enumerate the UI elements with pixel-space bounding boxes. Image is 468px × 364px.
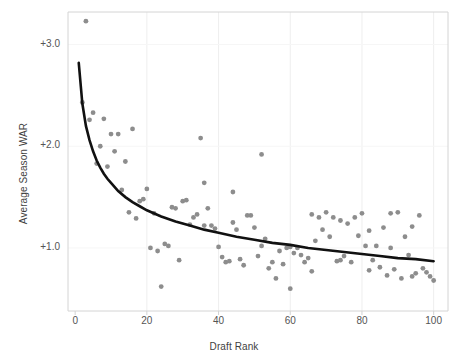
data-point	[338, 218, 343, 223]
data-point	[288, 286, 293, 291]
data-point	[259, 244, 264, 249]
data-point	[338, 258, 343, 263]
data-point	[130, 127, 135, 132]
data-point	[105, 164, 110, 169]
data-point	[399, 276, 404, 281]
data-point	[320, 227, 325, 232]
data-point	[162, 241, 167, 246]
data-point	[220, 255, 225, 260]
data-point	[363, 244, 368, 249]
data-point	[234, 227, 239, 232]
data-point	[238, 257, 243, 262]
chart-container: 020406080100 +1.0+2.0+3.0 Draft Rank Ave…	[0, 0, 468, 364]
data-point	[202, 223, 207, 228]
x-tick-label: 100	[414, 315, 454, 326]
data-point	[155, 249, 160, 254]
data-point	[431, 278, 436, 283]
data-point	[84, 19, 89, 24]
data-point	[374, 244, 379, 249]
data-point	[324, 210, 329, 215]
data-point	[277, 249, 282, 254]
data-point	[216, 245, 221, 250]
data-point	[327, 234, 332, 239]
data-point	[410, 274, 415, 279]
data-point	[252, 225, 257, 230]
data-point	[406, 253, 411, 258]
data-point	[184, 198, 189, 203]
data-point	[291, 251, 296, 256]
data-point	[101, 116, 106, 121]
data-point	[309, 269, 314, 274]
data-point	[403, 234, 408, 239]
data-point	[191, 215, 196, 220]
data-point	[202, 180, 207, 185]
data-point	[345, 221, 350, 226]
data-point	[331, 215, 336, 220]
x-tick-label: 40	[199, 315, 239, 326]
x-tick-label: 80	[342, 315, 382, 326]
data-point	[256, 254, 261, 259]
data-point	[270, 260, 275, 265]
x-tick-label: 60	[270, 315, 310, 326]
data-point	[388, 246, 393, 251]
data-points-group	[80, 19, 436, 291]
data-point	[342, 254, 347, 259]
data-point	[241, 263, 246, 268]
data-point	[109, 132, 114, 137]
y-axis-title: Average Season WAR	[18, 89, 29, 259]
data-point	[144, 187, 149, 192]
data-point	[116, 132, 121, 137]
data-point	[123, 159, 128, 164]
data-point	[259, 152, 264, 157]
data-point	[360, 211, 365, 216]
data-point	[231, 220, 236, 225]
data-point	[141, 197, 146, 202]
data-point	[177, 258, 182, 263]
data-point	[274, 276, 279, 281]
data-point	[356, 233, 361, 238]
data-point	[112, 149, 117, 154]
data-point	[421, 266, 426, 271]
data-point	[248, 213, 253, 218]
data-point	[417, 213, 422, 218]
data-point	[313, 238, 318, 243]
data-point	[302, 260, 307, 265]
data-point	[127, 210, 132, 215]
data-point	[98, 144, 103, 149]
data-point	[91, 110, 96, 115]
data-point	[159, 284, 164, 289]
data-point	[198, 136, 203, 141]
data-point	[148, 246, 153, 251]
data-point	[349, 260, 354, 265]
data-point	[367, 268, 372, 273]
data-point	[306, 256, 311, 261]
data-point	[428, 274, 433, 279]
data-point	[395, 210, 400, 215]
data-point	[87, 117, 92, 122]
data-point	[227, 259, 232, 264]
data-point	[281, 262, 286, 267]
data-point	[367, 228, 372, 233]
data-point	[381, 225, 386, 230]
data-point	[377, 265, 382, 270]
data-point	[370, 258, 375, 263]
trend-line	[79, 63, 434, 261]
data-point	[392, 267, 397, 272]
data-point	[385, 273, 390, 278]
data-point	[170, 205, 175, 210]
data-point	[352, 215, 357, 220]
data-point	[388, 211, 393, 216]
data-point	[266, 266, 271, 271]
data-point	[299, 253, 304, 258]
data-point	[317, 215, 322, 220]
x-axis-title: Draft Rank	[0, 341, 468, 352]
data-point	[231, 190, 236, 195]
data-point	[134, 216, 139, 221]
x-tick-label: 20	[127, 315, 167, 326]
data-point	[309, 212, 314, 217]
x-tick-label: 0	[55, 315, 95, 326]
data-point	[205, 206, 210, 211]
data-point	[410, 224, 415, 229]
scatter-plot-canvas	[0, 0, 468, 364]
data-point	[284, 246, 289, 251]
